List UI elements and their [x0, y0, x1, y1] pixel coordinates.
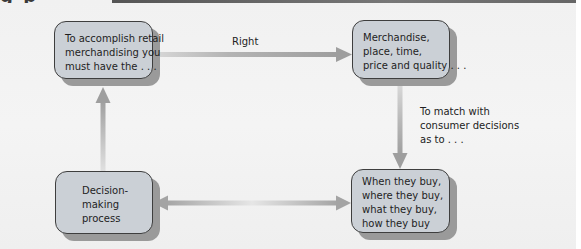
- node-text-line: merchandising you: [65, 46, 144, 60]
- node-top-right: Merchandise, place, time, price and qual…: [352, 20, 450, 79]
- node-box: To accomplish retail merchandising you m…: [54, 21, 153, 79]
- node-text-line: how they buy: [362, 217, 441, 231]
- node-text-line: When they buy,: [362, 175, 441, 189]
- node-top-left: To accomplish retail merchandising you m…: [54, 21, 153, 79]
- node-text-line: Decision-: [82, 184, 144, 198]
- arrow-label-line: To match with: [420, 105, 519, 119]
- arrow-up-left: [96, 87, 111, 171]
- node-box: Decision- making process: [55, 171, 153, 234]
- arrow-label-line: as to . . .: [420, 133, 519, 147]
- arrow-label-line: consumer decisions: [420, 119, 519, 133]
- node-text-line: process: [82, 212, 144, 226]
- node-text-line: Merchandise,: [363, 31, 441, 45]
- arrow-label-right: Right: [232, 35, 258, 49]
- arrow-right-top: [153, 47, 352, 62]
- node-text-line: price and quality . . .: [363, 59, 441, 73]
- node-text-line: place, time,: [363, 45, 441, 59]
- node-bottom-left: Decision- making process: [55, 171, 153, 234]
- arrow-label-match: To match with consumer decisions as to .…: [420, 105, 519, 147]
- node-box: When they buy, where they buy, what they…: [351, 169, 450, 233]
- arrow-bidirectional-bottom: [153, 196, 351, 211]
- arrow-down-right: [393, 86, 408, 169]
- node-text-line: what they buy,: [362, 203, 441, 217]
- node-bottom-right: When they buy, where they buy, what they…: [351, 169, 450, 233]
- diagram-canvas: g p: [0, 0, 576, 249]
- node-text-line: where they buy,: [362, 189, 441, 203]
- node-box: Merchandise, place, time, price and qual…: [352, 20, 450, 79]
- node-text-line: To accomplish retail: [65, 32, 144, 46]
- node-text-line: making: [82, 198, 144, 212]
- node-text-line: must have the . . .: [65, 60, 144, 74]
